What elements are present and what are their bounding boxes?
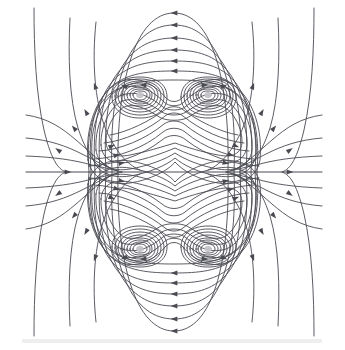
saddle-line	[99, 193, 249, 223]
arrowhead	[171, 59, 178, 64]
arrowhead	[82, 108, 90, 116]
saddle-line	[89, 178, 259, 209]
field-line-open	[282, 172, 314, 336]
arrowhead	[286, 146, 294, 154]
arrowhead	[171, 36, 178, 41]
upper-half-group	[26, 8, 322, 184]
field-line-envelope	[88, 80, 258, 172]
vortex-core	[137, 246, 144, 251]
arrowhead	[171, 317, 178, 322]
arrowhead	[54, 146, 62, 154]
vortex-core	[205, 92, 212, 97]
saddle-line	[99, 121, 249, 151]
arrowhead	[171, 11, 178, 16]
arrowhead	[171, 329, 178, 334]
arrowhead	[258, 108, 266, 116]
field-line-open	[240, 18, 279, 171]
field-line-canvas	[0, 0, 345, 350]
arrowheads-lower	[54, 178, 294, 333]
arrowhead	[171, 292, 178, 297]
lower-half-group	[26, 160, 322, 336]
field-line-envelope	[88, 172, 258, 264]
arrowhead	[171, 281, 178, 286]
arrowhead	[171, 23, 178, 28]
field-line-open	[34, 8, 66, 172]
arrowhead	[258, 228, 266, 236]
arrowhead	[171, 304, 178, 309]
field-line-open	[240, 173, 279, 326]
vortex-core	[137, 92, 144, 97]
vortex-core	[205, 246, 212, 251]
arrowhead	[171, 48, 178, 53]
arrowhead	[287, 170, 294, 175]
field-line-open	[282, 8, 314, 172]
field-line-figure: Magnetic field lines of a double vortex …	[0, 0, 345, 350]
arrowhead	[171, 271, 178, 276]
arrowheads-upper	[54, 11, 294, 166]
arrowhead	[82, 228, 90, 236]
arrowhead	[286, 190, 294, 198]
open-field-lines-lower	[26, 172, 322, 336]
footer-divider-band	[22, 339, 322, 343]
field-line-open	[34, 172, 66, 336]
saddle-line	[89, 136, 259, 167]
streamline-group	[26, 8, 322, 336]
arrowhead	[54, 190, 62, 198]
arrowhead	[171, 69, 178, 74]
arrowhead	[65, 170, 72, 175]
